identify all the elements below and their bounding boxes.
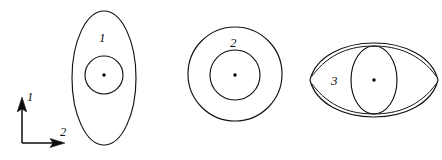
shape-3-label: 3: [330, 73, 338, 88]
axis-label-1: 1: [27, 90, 33, 104]
shape-2-center-point: [233, 73, 236, 76]
axis-label-2: 2: [60, 125, 66, 139]
shape-2-group: 2: [188, 27, 282, 121]
shape-1-center-point: [102, 73, 105, 76]
shape-1-label: 1: [99, 30, 106, 45]
shape-1-group: 1: [72, 11, 136, 145]
shape-2-label: 2: [230, 35, 237, 50]
shape-3-group: 3: [310, 43, 438, 117]
technical-figure: 1 2 1 2 3: [0, 0, 442, 160]
shape-3-center-point: [372, 78, 375, 81]
figure-canvas: 1 2 1 2 3: [0, 0, 442, 160]
coordinate-axes: 1 2: [17, 90, 66, 148]
